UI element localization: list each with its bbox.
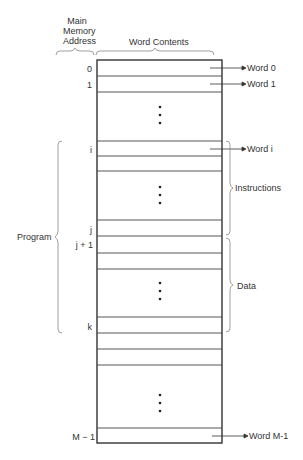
address-header: Main Memory Address xyxy=(63,16,91,46)
row-dividers xyxy=(97,76,222,428)
data-label: Data xyxy=(237,281,256,291)
address-header-brace xyxy=(56,48,94,55)
memory-box xyxy=(97,60,222,443)
data-brace xyxy=(226,238,233,332)
ellipsis-dots xyxy=(159,106,162,413)
instructions-label: Instructions xyxy=(235,183,281,193)
address-0: 0 xyxy=(52,64,92,74)
address-m-minus-1: M − 1 xyxy=(55,432,95,442)
address-1: 1 xyxy=(52,80,92,90)
address-k: k xyxy=(52,322,92,332)
address-header-line1: Main xyxy=(63,16,91,26)
address-j: j xyxy=(52,225,92,235)
address-header-line3: Address xyxy=(63,36,91,46)
program-brace xyxy=(55,141,62,333)
contents-header-brace xyxy=(96,48,214,55)
word-m-minus-1-label: Word M-1 xyxy=(249,431,288,441)
program-label: Program xyxy=(17,232,52,242)
address-i: i xyxy=(52,145,92,155)
address-header-line2: Memory xyxy=(63,26,91,36)
instructions-brace xyxy=(226,141,233,235)
contents-header: Word Contents xyxy=(129,37,189,47)
word-1-label: Word 1 xyxy=(247,79,276,89)
word-0-label: Word 0 xyxy=(247,63,276,73)
address-j-plus-1: j + 1 xyxy=(53,240,93,250)
word-i-label: Word i xyxy=(247,144,273,154)
